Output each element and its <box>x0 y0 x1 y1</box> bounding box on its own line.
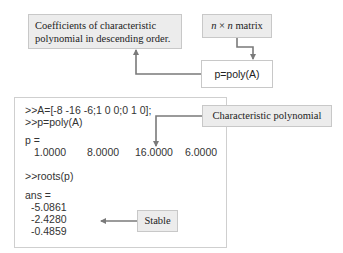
console-command-roots: >>roots(p) <box>25 170 73 182</box>
coefficients-callout: Coefficients of characteristic polynomia… <box>28 14 182 49</box>
console-ans-label: ans = <box>25 189 51 201</box>
root-value-2: -2.4280 <box>31 213 67 225</box>
matrix-times: × <box>216 20 227 31</box>
console-p-label: p = <box>25 134 40 146</box>
matrix-suffix: matrix <box>233 20 263 31</box>
p-value-4: 6.0000 <box>185 146 217 158</box>
root-value-3: -0.4859 <box>31 225 67 237</box>
poly-function-box: p=poly(A) <box>201 60 273 88</box>
poly-to-coefficients-arrow-icon <box>136 50 201 74</box>
coefficients-callout-line2: polynomial in descending order. <box>35 32 175 45</box>
console-command-poly: >>p=poly(A) <box>25 116 83 128</box>
p-value-3: 16.0000 <box>135 146 173 158</box>
p-value-2: 8.0000 <box>87 146 119 158</box>
root-value-1: -5.0861 <box>31 201 67 213</box>
matrix-to-poly-arrow-icon <box>237 38 253 59</box>
matlab-console: >>A=[-8 -16 -6;1 0 0;0 1 0]; >>p=poly(A)… <box>14 97 227 248</box>
console-command-define-matrix: >>A=[-8 -16 -6;1 0 0;0 1 0]; <box>25 104 151 116</box>
p-value-1: 1.0000 <box>34 146 66 158</box>
stable-callout: Stable <box>137 210 178 232</box>
coefficients-callout-line1: Coefficients of characteristic <box>35 19 175 32</box>
characteristic-polynomial-callout: Characteristic polynomial <box>202 105 332 127</box>
console-p-values: 1.0000 8.0000 16.0000 6.0000 <box>15 146 226 158</box>
matrix-callout: n × n matrix <box>202 14 272 38</box>
